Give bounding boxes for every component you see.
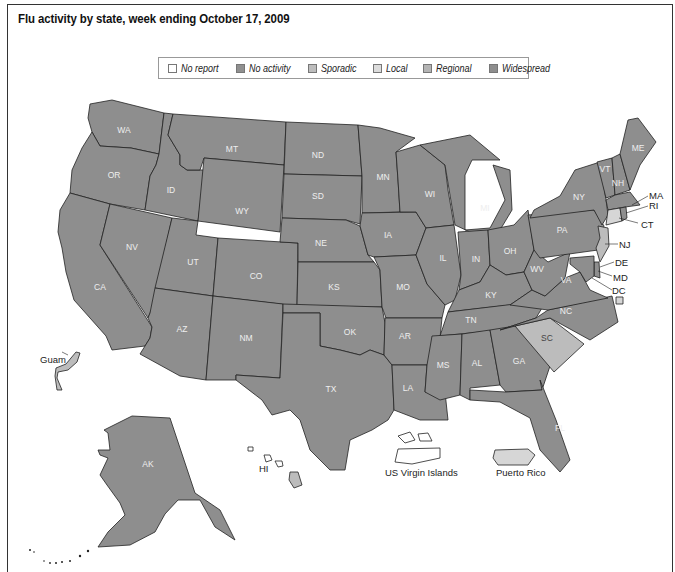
label-pa: PA [557, 225, 568, 235]
state-ct[interactable] [606, 208, 622, 225]
label-nc: NC [560, 306, 572, 316]
label-az: AZ [177, 324, 188, 334]
territory-usvi-1[interactable] [398, 432, 415, 443]
label-ok: OK [344, 327, 357, 337]
label-mt: MT [226, 144, 238, 154]
territory-usvi-2[interactable] [418, 433, 432, 441]
label-ar: AR [399, 331, 411, 341]
label-wv: WV [530, 264, 544, 274]
label-wa: WA [117, 125, 131, 135]
label-ca: CA [94, 282, 106, 292]
label-la: LA [403, 383, 414, 393]
label-ak: AK [142, 459, 154, 469]
label-wy: WY [235, 206, 249, 216]
label-puerto-rico: Puerto Rico [496, 467, 546, 478]
label-ky: KY [485, 290, 497, 300]
label-guam: Guam [40, 354, 66, 365]
state-ia[interactable] [360, 212, 426, 257]
label-mo: MO [396, 282, 410, 292]
label-ga: GA [513, 356, 526, 366]
label-me: ME [632, 143, 645, 153]
territory-usvi-3[interactable] [395, 448, 440, 464]
label-de: DE [615, 257, 628, 268]
us-map: WA OR CA ID NV MT WY UT AZ CO NM ND SD N… [0, 0, 675, 572]
label-ks: KS [328, 282, 340, 292]
label-or: OR [108, 170, 121, 180]
label-usvi: US Virgin Islands [385, 467, 458, 478]
state-nd[interactable] [284, 122, 362, 176]
state-hi[interactable] [289, 472, 302, 488]
label-nm: NM [239, 333, 252, 343]
label-ia: IA [384, 230, 392, 240]
label-ne: NE [315, 238, 327, 248]
label-sc: SC [541, 333, 553, 343]
label-mi: MI [480, 203, 489, 213]
state-ak[interactable] [98, 416, 235, 547]
label-ri: RI [649, 200, 659, 211]
label-vt: VT [600, 164, 611, 174]
state-hi-island4[interactable] [248, 447, 253, 451]
label-co: CO [250, 271, 263, 281]
label-nv: NV [126, 242, 138, 252]
label-nh: NH [612, 178, 624, 188]
label-wi: WI [425, 189, 435, 199]
label-ct: CT [641, 219, 654, 230]
state-wy[interactable] [198, 158, 284, 232]
label-ut: UT [187, 257, 198, 267]
label-md: MD [613, 272, 628, 283]
label-il: IL [439, 253, 446, 263]
label-sd: SD [312, 191, 324, 201]
label-nd: ND [312, 150, 324, 160]
label-ny: NY [573, 192, 585, 202]
label-ms: MS [437, 360, 450, 370]
label-al: AL [472, 358, 483, 368]
label-dc: DC [612, 285, 626, 296]
label-hi: HI [259, 463, 269, 474]
territory-puerto-rico[interactable] [493, 449, 535, 465]
label-oh: OH [504, 246, 517, 256]
label-nj: NJ [619, 239, 631, 250]
label-tx: TX [326, 384, 337, 394]
state-dc[interactable] [616, 297, 623, 304]
state-hi-island2[interactable] [264, 455, 272, 462]
state-de[interactable] [594, 262, 600, 278]
label-fl: FL [555, 423, 565, 433]
label-va: VA [561, 275, 572, 285]
state-hi-island3[interactable] [275, 461, 283, 467]
label-mn: MN [376, 172, 389, 182]
label-id: ID [167, 185, 176, 195]
aleutian-islands [29, 549, 89, 564]
label-tn: TN [465, 315, 476, 325]
label-in: IN [472, 254, 481, 264]
